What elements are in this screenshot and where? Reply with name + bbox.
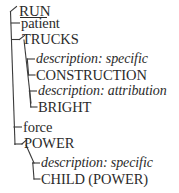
relation-label-specific-1: description: specific	[36, 52, 148, 66]
tree-diagram: RUN patient TRUCKS description: specific…	[0, 0, 179, 193]
role-label-force: force	[23, 120, 52, 135]
main-trunk-line	[11, 12, 16, 145]
concept-node-power: POWER	[24, 136, 74, 151]
subbranch-vertical-3	[33, 163, 34, 179]
value-node-construction: CONSTRUCTION	[36, 68, 147, 83]
subbranch-vertical-2	[30, 91, 31, 107]
trucks-subtrunk-line	[24, 40, 31, 103]
value-node-child-power: CHILD (POWER)	[41, 172, 148, 187]
relation-label-attribution: description: attribution	[38, 84, 167, 98]
concept-node-trucks: TRUCKS	[22, 32, 79, 47]
relation-label-specific-2: description: specific	[41, 156, 153, 170]
role-label-patient: patient	[21, 16, 60, 31]
subbranch-vertical-1	[27, 59, 28, 75]
value-node-bright: BRIGHT	[38, 100, 91, 115]
root-tick-line	[11, 7, 17, 12]
